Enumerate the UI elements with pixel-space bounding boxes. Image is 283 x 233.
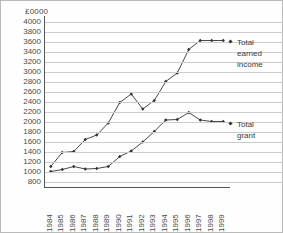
data-point-marker: [72, 165, 75, 168]
legend-marker: [228, 121, 232, 125]
y-tick-label: 3800: [1, 28, 41, 36]
x-tick-label: 1999: [217, 214, 226, 232]
y-tick-label: 1800: [1, 128, 41, 136]
legend-line: Total: [237, 119, 255, 130]
gridline: [45, 142, 283, 143]
y-tick-label: 1000: [1, 168, 41, 176]
gridline: [45, 22, 283, 23]
gridline: [45, 102, 283, 103]
y-tick-label: 1600: [1, 138, 41, 146]
chart-page: £0000 4000380036003400320030002800260024…: [0, 0, 283, 233]
x-tick-label: 1988: [91, 214, 100, 232]
y-tick-label: 2200: [1, 108, 41, 116]
series-line: [51, 41, 224, 167]
x-tick-label: 1996: [183, 214, 192, 232]
gridline: [45, 182, 283, 183]
y-tick-label: 1400: [1, 148, 41, 156]
gridline: [45, 32, 283, 33]
x-tick-label: 1995: [171, 214, 180, 232]
data-point-marker: [95, 167, 98, 170]
x-tick-label: 1984: [45, 214, 54, 232]
legend-line: earned: [237, 48, 263, 59]
x-tick-label: 1985: [56, 214, 65, 232]
y-tick-label: 2800: [1, 78, 41, 86]
y-tick-label: 1200: [1, 158, 41, 166]
y-tick-label: 4000: [1, 18, 41, 26]
gridline: [45, 82, 283, 83]
x-tick-label: 1986: [68, 214, 77, 232]
legend-line: grant: [237, 130, 255, 141]
x-tick-label: 1990: [114, 214, 123, 232]
y-tick-label: 3200: [1, 58, 41, 66]
x-tick-label: 1991: [125, 214, 134, 232]
legend-total-grant: Total grant: [237, 119, 255, 141]
x-tick-label: 1993: [148, 214, 157, 232]
x-tick-label: 1992: [137, 214, 146, 232]
data-point-marker: [61, 168, 64, 171]
y-tick-label: 3400: [1, 48, 41, 56]
x-tick-label: 1989: [102, 214, 111, 232]
gridline: [45, 152, 283, 153]
gridline: [45, 72, 283, 73]
y-tick-label: 2400: [1, 98, 41, 106]
line-chart: £0000 4000380036003400320030002800260024…: [1, 1, 283, 233]
x-axis-line: [44, 187, 230, 188]
y-tick-label: 3600: [1, 38, 41, 46]
legend-total-earned-income: Total earned income: [237, 37, 263, 70]
y-tick-label: 2600: [1, 88, 41, 96]
gridline: [45, 162, 283, 163]
legend-line: Total: [237, 37, 263, 48]
x-axis-tick-labels: 1984198519861987198819891990199119921993…: [1, 191, 283, 233]
y-tick-label: 800: [1, 178, 41, 186]
gridline: [45, 92, 283, 93]
gridline: [45, 112, 283, 113]
x-tick-label: 1997: [194, 214, 203, 232]
gridline: [45, 172, 283, 173]
y-tick-label: 3000: [1, 68, 41, 76]
x-tick-label: 1994: [160, 214, 169, 232]
y-tick-label: 2000: [1, 118, 41, 126]
legend-line: income: [237, 59, 263, 70]
x-tick-label: 1987: [79, 214, 88, 232]
data-point-marker: [84, 167, 87, 170]
x-tick-label: 1998: [206, 214, 215, 232]
